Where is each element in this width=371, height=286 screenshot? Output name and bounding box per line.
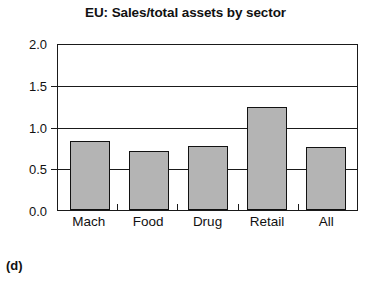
bar-slot-retail [237,45,296,210]
bar-all [306,147,346,210]
bar-mach [70,141,110,210]
x-label-all: All [297,214,356,229]
figure-caption: (d) [6,258,23,273]
y-tick-label-0-0: 0.0 [29,205,47,218]
x-label-retail: Retail [237,214,296,229]
bar-drug [188,146,228,210]
plot-area [57,44,358,211]
y-tick-label-1-0: 1.0 [29,121,47,134]
bar-retail [247,107,287,210]
x-tick-mark-3 [238,204,239,211]
x-axis-labels: Mach Food Drug Retail All [57,214,358,229]
chart-title: EU: Sales/total assets by sector [0,5,371,20]
x-label-food: Food [118,214,177,229]
y-tick-label-1-5: 1.5 [29,79,47,92]
bar-food [129,151,169,210]
x-tick-mark-1 [117,204,118,211]
bar-slot-drug [178,45,237,210]
y-tick-label-2-0: 2.0 [29,38,47,51]
x-tick-mark-2 [177,204,178,211]
bars-layer [58,45,357,210]
bar-chart-figure: EU: Sales/total assets by sector 2.0 1.5… [0,0,371,286]
x-label-mach: Mach [59,214,118,229]
bar-slot-mach [60,45,119,210]
y-tick-label-0-5: 0.5 [29,163,47,176]
x-label-drug: Drug [178,214,237,229]
bar-slot-all [296,45,355,210]
y-axis: 2.0 1.5 1.0 0.5 0.0 [0,44,57,211]
x-tick-mark-4 [298,204,299,211]
bar-slot-food [119,45,178,210]
